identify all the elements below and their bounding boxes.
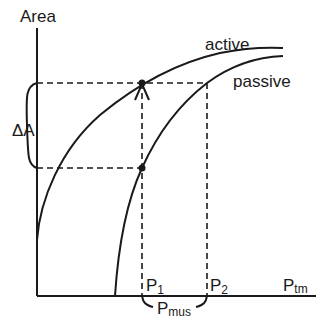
passive-label: passive <box>233 72 291 91</box>
pmus-label: Pmus <box>157 299 191 319</box>
upper-point <box>139 80 146 87</box>
y-axis-label: Area <box>20 7 56 26</box>
p2-label: P2 <box>210 276 228 297</box>
p1-label: P1 <box>146 276 164 297</box>
passive-curve <box>115 56 283 296</box>
delta-area-label: ΔA <box>12 121 35 140</box>
active-label: active <box>205 35 249 54</box>
lower-point <box>139 165 146 172</box>
pressure-area-diagram: Area active passive ΔA P1 P2 Ptm Pmus <box>0 0 321 326</box>
x-axis-label: Ptm <box>283 276 308 296</box>
